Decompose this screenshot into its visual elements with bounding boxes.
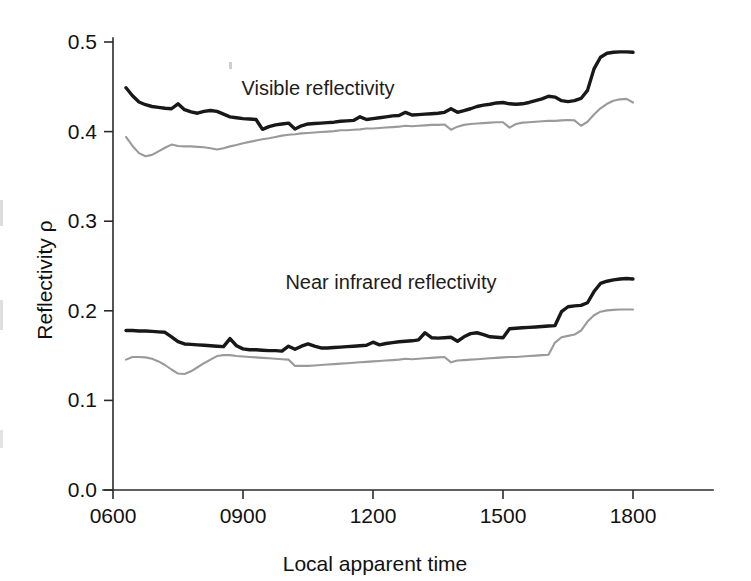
y-tick-label: 0.0 [68,478,97,501]
x-tick-label: 1800 [610,504,657,527]
annotation-near-infrared-reflectivity: Near infrared reflectivity [285,271,496,293]
y-tick-label: 0.1 [68,388,97,411]
annotation-visible-reflectivity: Visible reflectivity [241,77,394,99]
y-tick-label: 0.3 [68,209,97,232]
x-axis-title: Local apparent time [283,552,467,575]
x-tick-label: 1200 [350,504,397,527]
reflectivity-line-chart: 0.00.10.20.30.40.5 06000900120015001800 … [0,0,751,581]
y-tick-label: 0.4 [68,120,98,143]
x-tick-label: 0600 [90,504,137,527]
y-tick-label: 0.2 [68,299,97,322]
x-tick-label: 0900 [220,504,267,527]
figure-root: 0.00.10.20.30.40.5 06000900120015001800 … [0,0,751,581]
x-tick-label: 1500 [480,504,527,527]
y-tick-label: 0.5 [68,30,97,53]
y-axis-title: Reflectivity ρ [33,220,56,339]
